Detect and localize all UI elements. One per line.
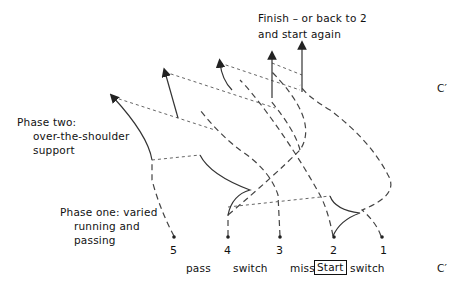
switch-curve-2: [330, 196, 360, 236]
action-start-box: Start: [314, 260, 347, 275]
phase-one-line3: passing: [74, 234, 116, 247]
position-3: 3: [276, 244, 283, 257]
action-switch-2: switch: [350, 262, 385, 275]
position-5: 5: [170, 244, 177, 257]
run-path-1: [300, 85, 391, 236]
run-path-5: [152, 160, 174, 236]
finish-label-line2: and start again: [258, 28, 341, 41]
position-1: 1: [380, 244, 387, 257]
pass-line-5: [220, 63, 300, 90]
finish-label-line1: Finish – or back to 2: [258, 12, 367, 25]
action-switch-1: switch: [233, 262, 268, 275]
switch-curve-4: [200, 155, 250, 215]
position-4: 4: [224, 244, 231, 257]
pass-line-4: [165, 72, 275, 108]
phase-one-line2: running and: [74, 220, 140, 233]
phase-one-line1: Phase one: varied: [60, 206, 158, 219]
pass-line-6: [272, 63, 302, 75]
phase-two-line2: over-the-shoulder: [33, 130, 130, 143]
c-prime-bottom: C′: [437, 262, 447, 275]
position-2: 2: [330, 244, 337, 257]
pass-line-3: [113, 97, 215, 130]
c-prime-top: C′: [437, 82, 447, 95]
action-pass: pass: [186, 262, 211, 275]
phase-two-line3: support: [33, 144, 75, 157]
support-path-3: [220, 63, 232, 90]
phase-two-title: Phase two:: [17, 116, 76, 129]
support-path-1: [113, 97, 152, 160]
support-path-2: [165, 72, 178, 118]
run-path-a: [228, 70, 306, 215]
pass-line-1: [152, 155, 200, 160]
action-miss: miss: [290, 262, 315, 275]
